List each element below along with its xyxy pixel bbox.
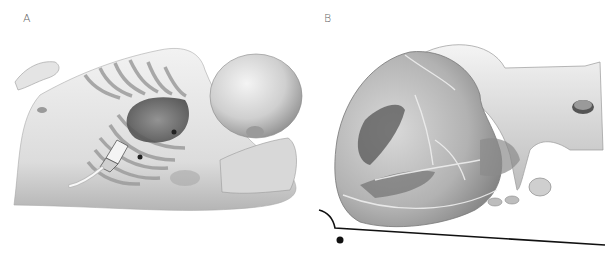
panel-b: B [305, 0, 615, 256]
heart-illustration [305, 0, 615, 256]
panel-a: A [0, 0, 305, 256]
infant-illustration [0, 0, 305, 256]
reference-dot-icon [337, 237, 344, 244]
